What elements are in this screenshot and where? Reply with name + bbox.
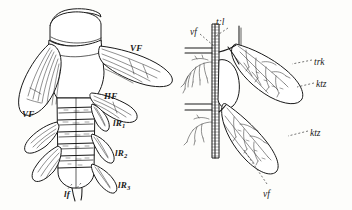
right-figure-group bbox=[181, 24, 314, 184]
label-lr3-base: lR bbox=[118, 180, 127, 190]
left-figure-group bbox=[19, 9, 173, 201]
label-lr1-subscript: 1 bbox=[122, 122, 126, 129]
label-lr3-subscript: 3 bbox=[127, 184, 131, 191]
label-lf: lf bbox=[64, 190, 70, 199]
label-lr2-subscript: 2 bbox=[124, 152, 128, 159]
label-hf: HF bbox=[104, 92, 118, 101]
label-vf-bottom: vf bbox=[263, 190, 270, 200]
label-lr3: lR3 bbox=[118, 181, 131, 192]
label-trl: t:l bbox=[216, 18, 224, 28]
label-vf-right: VF bbox=[130, 44, 143, 53]
left-upper-trachea bbox=[181, 55, 212, 93]
label-lr1: lR1 bbox=[113, 119, 126, 130]
label-lr2: lR2 bbox=[115, 149, 128, 160]
label-ktz-lower: ktz bbox=[310, 129, 321, 139]
left-lower-trachea bbox=[184, 115, 212, 145]
illustration-plate: .s { fill:none; stroke:#1a1a1a; stroke-w… bbox=[0, 0, 352, 210]
plate-linework: .s { fill:none; stroke:#1a1a1a; stroke-w… bbox=[0, 0, 352, 210]
label-lr1-base: lR bbox=[113, 118, 122, 128]
label-trk: trk bbox=[314, 58, 325, 68]
label-ktz-upper: ktz bbox=[316, 80, 327, 90]
label-lr2-base: lR bbox=[115, 148, 124, 158]
label-vf-left: VF bbox=[22, 110, 35, 119]
label-vf-top: vf bbox=[190, 28, 197, 38]
